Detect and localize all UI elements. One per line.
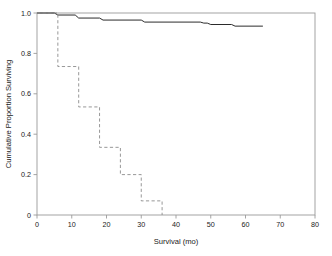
x-tick-label: 10 <box>68 220 76 229</box>
x-tick-label: 50 <box>207 220 215 229</box>
chart-canvas: 00.20.40.60.81.0 01020304050607080 Survi… <box>0 0 332 256</box>
y-tick-label: 0.6 <box>21 89 31 98</box>
plot-frame <box>37 13 315 215</box>
x-tick-label: 80 <box>311 220 319 229</box>
y-axis-ticks: 00.20.40.60.81.0 <box>21 9 37 220</box>
x-tick-label: 70 <box>276 220 284 229</box>
y-tick-label: 0.8 <box>21 49 31 58</box>
solid-curve <box>37 13 263 26</box>
survival-chart-figure: 00.20.40.60.81.0 01020304050607080 Survi… <box>0 0 332 256</box>
y-tick-label: 0.4 <box>21 130 31 139</box>
x-tick-label: 0 <box>35 220 39 229</box>
y-tick-label: 1.0 <box>21 9 31 18</box>
x-tick-label: 20 <box>103 220 111 229</box>
data-series-layer <box>37 13 263 215</box>
x-axis-ticks: 01020304050607080 <box>35 215 319 229</box>
y-tick-label: 0.2 <box>21 170 31 179</box>
x-tick-label: 60 <box>242 220 250 229</box>
x-tick-label: 40 <box>172 220 180 229</box>
x-tick-label: 30 <box>137 220 145 229</box>
dashed-curve <box>37 13 162 215</box>
y-tick-label: 0 <box>27 211 31 220</box>
x-axis-title: Survival (mo) <box>154 237 199 246</box>
y-axis-title: Cumulative Proportion Surviving <box>4 60 13 168</box>
